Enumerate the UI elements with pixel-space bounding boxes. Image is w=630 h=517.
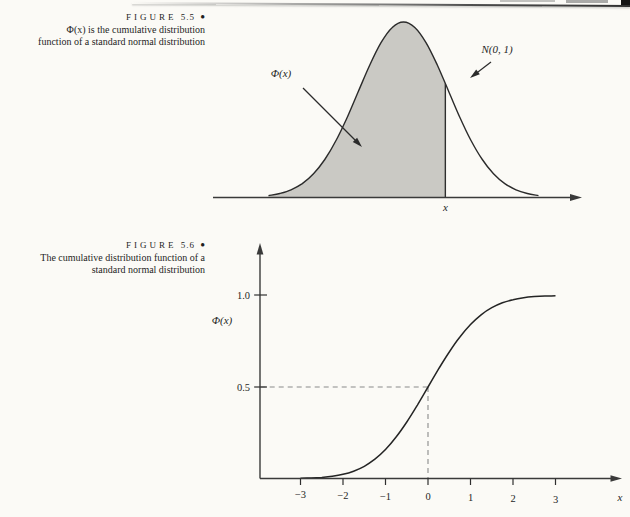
- ytick-label: 0.5: [237, 382, 250, 393]
- axis-arrowhead-icon: [570, 194, 582, 201]
- xtick-label: 2: [510, 493, 515, 504]
- normal-pointer-arrow: [470, 62, 491, 78]
- xtick-label: −1: [380, 491, 391, 502]
- book-page: FIGURE 5.5 ● Φ(x) is the cumulative dist…: [0, 0, 630, 517]
- figure-label: FIGURE: [126, 240, 177, 250]
- page-corner-mark: [621, 0, 630, 5]
- caption-text-line: Φ(x) is the cumulative distribution: [0, 24, 205, 36]
- cdf-shaded-area: [269, 22, 446, 198]
- figure-label: FIGURE: [126, 12, 177, 22]
- caption-text-line: standard normal distribution: [0, 264, 205, 276]
- y-axis-label: Φ(x): [212, 314, 233, 327]
- figure-number: 5.6: [181, 240, 195, 250]
- figure-5-5-caption: FIGURE 5.5 ● Φ(x) is the cumulative dist…: [0, 12, 205, 48]
- ytick-label: 1.0: [237, 290, 250, 301]
- arrowhead-icon: [470, 70, 480, 79]
- figure-5-5-caption-heading: FIGURE 5.5 ●: [0, 12, 205, 22]
- xtick-label: 0: [425, 491, 430, 502]
- axis-arrowhead-icon: [257, 243, 264, 255]
- header-text-remnant: [500, 0, 555, 2]
- xtick-label: 3: [553, 494, 558, 505]
- arrow-shaft: [476, 62, 491, 73]
- figure-5-6-caption-heading: FIGURE 5.6 ●: [0, 240, 205, 250]
- axis-arrowhead-icon: [611, 475, 623, 482]
- caption-text-line: function of a standard normal distributi…: [0, 36, 205, 48]
- figure-number: 5.5: [181, 12, 195, 22]
- xtick-label: 1: [468, 492, 473, 503]
- phi-annotation-label: Φ(x): [271, 67, 292, 80]
- page-header-rule: [132, 2, 630, 7]
- figure-5-5-plot: Φ(x) N(0, 1) x: [200, 8, 630, 230]
- y-axis: [254, 243, 267, 479]
- xtick-label: −3: [295, 489, 306, 500]
- x-axis: [260, 475, 622, 485]
- header-text-remnant: [566, 0, 608, 3]
- xtick-label: −2: [337, 490, 348, 501]
- x-point-label: x: [442, 201, 448, 213]
- normal-distribution-label: N(0, 1): [480, 43, 513, 56]
- figure-5-6-caption: FIGURE 5.6 ● The cumulative distribution…: [0, 240, 205, 276]
- caption-text-line: The cumulative distribution function of …: [0, 252, 205, 264]
- x-axis-label: x: [617, 491, 623, 503]
- figure-5-6-plot: 1.0 0.5 Φ(x) −3 −2 −1 0 1 2 3 x: [200, 235, 630, 517]
- dashed-guides: [261, 387, 428, 478]
